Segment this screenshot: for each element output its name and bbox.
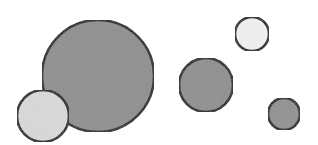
medium-gray-circle — [179, 58, 233, 112]
light-circle-left — [17, 90, 69, 142]
circles-diagram — [0, 0, 318, 145]
small-gray-circle — [268, 98, 300, 130]
small-white-circle — [235, 17, 269, 51]
